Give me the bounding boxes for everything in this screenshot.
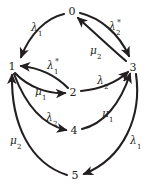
edge-symbol: λ	[97, 74, 104, 86]
edge-label-5-to-1: μ2	[10, 135, 18, 146]
edge-label-0-to-1: λ1	[31, 22, 39, 33]
edge-symbol: μ	[35, 85, 42, 97]
edge-subscript: 1	[137, 143, 141, 151]
node-1[interactable]: 1	[9, 61, 16, 72]
edge-symbol: λ	[46, 111, 53, 123]
edge-label-1-to-4: λ2	[46, 112, 54, 123]
node-5[interactable]: 5	[72, 170, 79, 181]
edge-subscript: 2	[116, 29, 120, 37]
node-3[interactable]: 3	[130, 62, 137, 73]
edge-label-2-to-1: λ1*	[47, 60, 59, 71]
edge-subscript: 2	[53, 120, 57, 128]
edge-label-3-to-0: μ2	[90, 45, 98, 56]
edge-subscript: 1	[109, 116, 113, 124]
edge-subscript: 1	[54, 68, 58, 76]
edge-label-4-to-3: μ1	[102, 108, 110, 119]
edge-label-0-to-3: λ2*	[109, 21, 121, 32]
edge-subscript: 1	[38, 30, 42, 38]
edge-0-to-1	[21, 14, 64, 57]
edge-0-to-3	[80, 13, 129, 56]
edge-superscript: *	[55, 56, 59, 65]
edge-subscript: 2	[17, 143, 21, 151]
edge-label-2-to-3: λ2	[97, 75, 105, 86]
node-4[interactable]: 4	[71, 125, 78, 136]
edge-symbol: λ	[130, 134, 137, 146]
node-2[interactable]: 2	[70, 87, 77, 98]
edge-label-1-to-2: μ1	[35, 86, 43, 97]
edge-symbol: μ	[90, 44, 97, 56]
edge-symbol: μ	[102, 107, 109, 119]
node-0[interactable]: 0	[69, 6, 76, 17]
edge-subscript: 1	[42, 94, 46, 102]
edge-symbol: λ	[47, 59, 54, 71]
edge-subscript: 2	[97, 53, 101, 61]
edge-label-3-to-5: λ1	[130, 135, 138, 146]
edge-superscript: *	[117, 17, 121, 26]
state-transition-diagram: 0 1 2 3 4 5 λ1 λ2* μ2 λ1* μ1 λ2 λ2 μ1 λ1…	[0, 0, 148, 187]
edge-symbol: λ	[31, 21, 38, 33]
edge-symbol: μ	[10, 134, 17, 146]
edge-symbol: λ	[109, 20, 116, 32]
edge-subscript: 2	[104, 83, 108, 91]
edge-1-to-4	[14, 74, 66, 130]
